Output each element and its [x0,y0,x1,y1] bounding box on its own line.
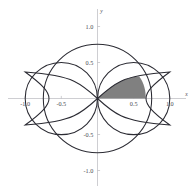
x-tick-label-0.5: 0.5 [130,100,138,107]
x-axis-label: x [184,91,188,97]
plot-canvas: -1.0 -0.5 0.5 1.0 1.0 0.5 -0.5 -1.0 x y [0,0,194,193]
x-tick-label-1.0: 1.0 [166,100,174,107]
y-tick-label-0.5: 0.5 [86,59,94,66]
y-axis-label: y [99,8,103,14]
plot-figure: -1.0 -0.5 0.5 1.0 1.0 0.5 -0.5 -1.0 x y [0,0,194,193]
y-tick-label-1.0: 1.0 [86,23,94,30]
y-tick-label--1.0: -1.0 [84,167,94,174]
x-tick-label--1.0: -1.0 [20,100,30,107]
y-tick-label--0.5: -0.5 [84,131,94,138]
x-tick-label--0.5: -0.5 [56,100,66,107]
